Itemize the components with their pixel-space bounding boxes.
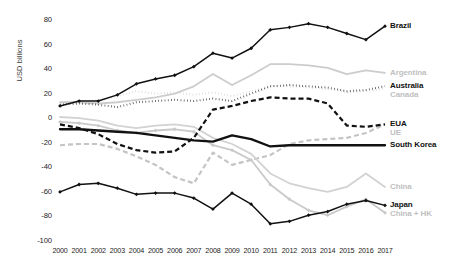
data-point-marker bbox=[173, 191, 177, 195]
y-tick-label: 60 bbox=[26, 40, 52, 49]
data-point-marker bbox=[96, 181, 100, 185]
data-point-marker bbox=[288, 219, 292, 223]
data-point-marker bbox=[96, 99, 100, 103]
y-tick-label: -60 bbox=[26, 187, 52, 196]
series-line-brazil bbox=[60, 24, 385, 106]
series-label-canada: Canada bbox=[390, 90, 418, 99]
data-point-marker bbox=[383, 203, 387, 207]
data-point-marker bbox=[326, 210, 330, 214]
series-label-brazil: Brazil bbox=[390, 21, 411, 30]
data-point-marker bbox=[307, 213, 311, 217]
series-line-australia bbox=[60, 85, 385, 107]
y-tick-label: 80 bbox=[26, 15, 52, 24]
data-point-marker bbox=[173, 127, 177, 131]
y-tick-label: 20 bbox=[26, 89, 52, 98]
series-label-china-hk: China + HK bbox=[390, 209, 432, 218]
data-point-marker bbox=[326, 25, 330, 29]
y-tick-label: 0 bbox=[26, 113, 52, 122]
data-point-marker bbox=[135, 192, 139, 196]
series-line-ue bbox=[60, 124, 385, 183]
data-point-marker bbox=[96, 124, 100, 128]
data-point-marker bbox=[154, 77, 158, 81]
data-point-marker bbox=[77, 121, 81, 125]
series-line-south-korea bbox=[60, 129, 385, 146]
data-point-marker bbox=[307, 22, 311, 26]
series-label-ue: UE bbox=[390, 128, 401, 137]
series-label-japan: Japan bbox=[390, 200, 413, 209]
y-tick-label: -40 bbox=[26, 162, 52, 171]
y-tick-label: -80 bbox=[26, 211, 52, 220]
series-label-australia: Australia bbox=[390, 81, 423, 90]
series-label-eua: EUA bbox=[390, 119, 407, 128]
data-point-marker bbox=[345, 32, 349, 36]
y-tick-label: -20 bbox=[26, 138, 52, 147]
data-point-marker bbox=[288, 25, 292, 29]
data-point-marker bbox=[58, 190, 62, 194]
series-label-south-korea: South Korea bbox=[390, 140, 436, 149]
data-point-marker bbox=[154, 191, 158, 195]
y-tick-label: -100 bbox=[26, 236, 52, 245]
series-label-argentina: Argentina bbox=[390, 68, 426, 77]
y-tick-label: 40 bbox=[26, 64, 52, 73]
line-chart-plot bbox=[0, 0, 451, 259]
series-line-canada bbox=[60, 86, 385, 103]
data-point-marker bbox=[154, 129, 158, 133]
x-tick-label: 2017 bbox=[373, 246, 397, 255]
data-point-marker bbox=[115, 186, 119, 190]
chart-container: USD billions 806040200-20-40-60-80-100 2… bbox=[0, 0, 451, 259]
data-point-marker bbox=[58, 120, 62, 124]
data-point-marker bbox=[77, 183, 81, 187]
series-label-china: China bbox=[390, 182, 412, 191]
